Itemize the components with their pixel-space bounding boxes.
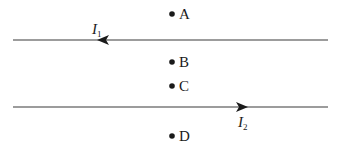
point-d-label: D: [179, 128, 190, 144]
wires-diagram: I1 I2 A B C D: [0, 0, 338, 154]
wire-1: I1: [13, 21, 328, 45]
wire-2: I2: [13, 102, 328, 132]
point-d: D: [169, 128, 190, 144]
point-d-dot: [169, 133, 175, 139]
point-b-dot: [169, 59, 175, 65]
point-c-label: C: [179, 78, 189, 94]
point-b: B: [169, 54, 189, 70]
point-a-label: A: [179, 6, 190, 22]
current-label-i1: I1: [91, 21, 102, 39]
point-a: A: [169, 6, 190, 22]
point-b-label: B: [179, 54, 189, 70]
point-c-dot: [169, 83, 175, 89]
point-a-dot: [169, 11, 175, 17]
current-label-i2: I2: [237, 114, 248, 132]
point-c: C: [169, 78, 189, 94]
